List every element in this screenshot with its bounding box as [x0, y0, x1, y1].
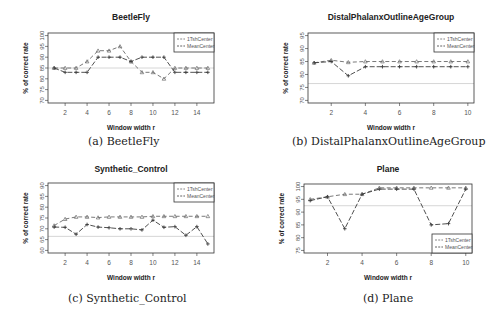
data-point [107, 226, 111, 230]
x-tick-label: 10 [462, 259, 470, 266]
data-point [173, 214, 177, 217]
legend-label: MeanCenter [187, 193, 215, 199]
x-tick-label: 4 [85, 259, 89, 266]
x-tick-label: 4 [364, 109, 368, 116]
y-tick-label: 95 [299, 32, 305, 39]
y-tick-label: 85 [39, 64, 45, 71]
y-tick-label: 85 [299, 58, 305, 65]
y-tick-label: 100 [39, 30, 45, 41]
x-tick-label: 10 [149, 259, 157, 266]
x-tick-label: 10 [464, 109, 472, 116]
legend-label: MeanCenter [447, 43, 475, 49]
data-point [129, 227, 133, 231]
x-tick-label: 14 [193, 259, 201, 266]
data-point [429, 223, 433, 227]
y-tick-label: 75 [39, 86, 45, 93]
panel-a: BeetleFly2468101214707580859095100Window… [0, 0, 244, 140]
y-tick-label: 75 [299, 83, 305, 90]
chart-beetlefly: BeetleFly2468101214707580859095100Window… [0, 0, 244, 140]
y-tick-label: 90 [39, 182, 45, 189]
y-tick-label: 90 [295, 208, 301, 215]
data-point [140, 215, 144, 218]
y-tick-label: 80 [295, 234, 301, 241]
series-line-MeanCenter [314, 62, 468, 76]
x-tick-label: 2 [63, 109, 67, 116]
data-point [184, 71, 188, 75]
caption-d: (d) Plane [363, 292, 413, 305]
legend-label: 1TshCenter [447, 36, 473, 42]
data-point [449, 65, 453, 69]
y-tick-label: 70 [299, 96, 305, 103]
x-tick-label: 2 [63, 259, 67, 266]
data-point [151, 55, 155, 59]
series-line-MeanCenter [310, 189, 466, 229]
x-tick-label: 6 [107, 109, 111, 116]
y-tick-label: 90 [39, 53, 45, 60]
data-point [398, 65, 402, 69]
y-tick-label: 70 [39, 225, 45, 232]
data-point [343, 227, 347, 231]
chart-title: Plane [377, 164, 400, 174]
x-axis-label: Window width r [107, 124, 155, 131]
panel-b: DistalPhalanxOutlineAgeGroup246810707580… [244, 0, 488, 140]
data-point [118, 227, 122, 231]
x-axis-label: Window width r [367, 124, 415, 131]
data-point [364, 65, 368, 69]
x-tick-label: 8 [129, 259, 133, 266]
y-tick-label: 70 [39, 96, 45, 103]
y-tick-label: 75 [39, 214, 45, 221]
x-tick-label: 12 [171, 109, 179, 116]
legend-label: 1TshCenter [445, 237, 471, 243]
panel-c: Synthetic_Control24681012146065707580859… [0, 160, 244, 300]
data-point [107, 55, 111, 59]
y-tick-label: 60 [39, 246, 45, 253]
data-point [118, 55, 122, 59]
data-point [63, 225, 67, 229]
data-point [381, 65, 385, 69]
x-tick-label: 8 [129, 109, 133, 116]
chart-plane: Plane2468107580859095100Window width r% … [244, 160, 488, 300]
x-tick-label: 12 [171, 259, 179, 266]
x-tick-label: 2 [329, 109, 333, 116]
x-tick-label: 4 [85, 109, 89, 116]
data-point [415, 65, 419, 69]
x-tick-label: 2 [326, 259, 330, 266]
y-tick-label: 65 [39, 236, 45, 243]
y-tick-label: 100 [295, 181, 301, 192]
data-point [63, 71, 67, 75]
x-tick-label: 14 [193, 109, 201, 116]
y-tick-label: 95 [39, 42, 45, 49]
y-tick-label: 85 [295, 221, 301, 228]
y-axis-label: % of correct rate [282, 42, 289, 94]
legend-label: MeanCenter [187, 43, 215, 49]
chart-synthetic-control: Synthetic_Control24681012146065707580859… [0, 160, 244, 300]
chart-title: BeetleFly [112, 12, 150, 22]
data-point [107, 215, 111, 218]
y-tick-label: 80 [39, 203, 45, 210]
x-axis-label: Window width r [364, 274, 412, 281]
chart-title: DistalPhalanxOutlineAgeGroup [328, 12, 455, 22]
legend-label: MeanCenter [445, 244, 473, 250]
y-tick-label: 95 [295, 195, 301, 202]
x-tick-label: 6 [395, 259, 399, 266]
data-point [140, 55, 144, 59]
data-point [96, 225, 100, 229]
y-axis-label: % of correct rate [22, 192, 29, 244]
series-line-1TshCenter [314, 60, 468, 63]
legend-label: 1TshCenter [187, 186, 213, 192]
y-axis-label: % of correct rate [278, 192, 285, 244]
chart-distalphalanx: DistalPhalanxOutlineAgeGroup246810707580… [244, 0, 488, 140]
data-point [195, 71, 199, 75]
data-point [206, 214, 210, 217]
data-point [364, 60, 368, 63]
data-point [74, 71, 78, 75]
data-point [466, 60, 470, 63]
y-tick-label: 90 [299, 45, 305, 52]
legend-label: 1TshCenter [187, 36, 213, 42]
data-point [206, 71, 210, 75]
x-tick-label: 4 [360, 259, 364, 266]
data-point [432, 65, 436, 69]
data-point [466, 65, 470, 69]
x-tick-label: 6 [107, 259, 111, 266]
data-point [96, 49, 100, 52]
